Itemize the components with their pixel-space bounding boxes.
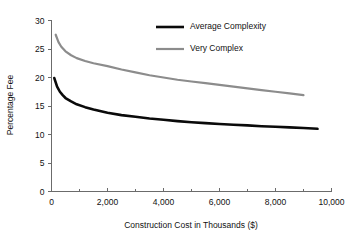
x-tick-label: 6,000 [209, 197, 231, 207]
y-tick-label: 15 [35, 101, 45, 111]
legend-label: Average Complexity [190, 21, 267, 31]
y-tick-label: 30 [35, 16, 45, 26]
percentage-fee-line-chart: 051015202530 02,0004,0006,0008,00010,000… [0, 0, 352, 240]
y-tick-label: 10 [35, 130, 45, 140]
y-tick-label: 5 [40, 158, 45, 168]
y-tick-label: 20 [35, 73, 45, 83]
y-tick-label: 0 [40, 187, 45, 197]
legend-label: Very Complex [190, 43, 244, 53]
y-axis-title: Percentage Fee [5, 74, 15, 135]
x-tick-label: 10,000 [319, 197, 345, 207]
chart-container: 051015202530 02,0004,0006,0008,00010,000… [0, 0, 352, 240]
x-tick-label: 4,000 [153, 197, 175, 207]
x-axis-title: Construction Cost in Thousands ($) [124, 220, 258, 230]
y-tick-label: 25 [35, 44, 45, 54]
x-tick-label: 8,000 [265, 197, 287, 207]
x-tick-label: 2,000 [97, 197, 119, 207]
x-tick-label: 0 [49, 197, 54, 207]
